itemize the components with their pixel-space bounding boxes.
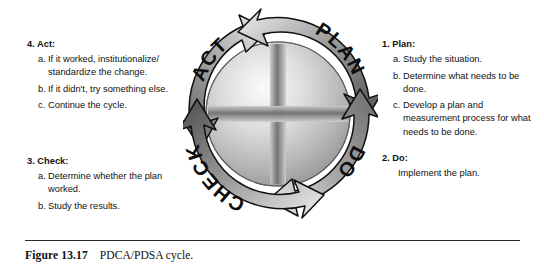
list-marker: a. bbox=[38, 53, 48, 79]
figure-area: 4. Act: a. If it worked, institutionaliz… bbox=[0, 0, 544, 232]
pdca-cycle-diagram: PLAN DO CHECK ACT bbox=[183, 4, 378, 230]
list-text: Develop a plan and measurement process f… bbox=[403, 99, 538, 138]
step-block-check: 3. Check: a. Determine whether the plan … bbox=[27, 155, 187, 216]
list-marker: b. bbox=[393, 70, 403, 96]
list-text: Continue the cycle. bbox=[48, 99, 195, 112]
list-item: b. Determine what needs to be done. bbox=[382, 70, 538, 96]
list-item: c. Continue the cycle. bbox=[27, 99, 195, 112]
list-text: If it didn't, try something else. bbox=[48, 83, 195, 96]
step-text-do: Implement the plan. bbox=[382, 167, 532, 180]
list-marker: b. bbox=[38, 83, 48, 96]
list-text: Study the results. bbox=[48, 200, 187, 213]
list-text: Determine whether the plan worked. bbox=[48, 170, 187, 196]
list-marker: a. bbox=[393, 53, 403, 66]
list-item: b. If it didn't, try something else. bbox=[27, 83, 195, 96]
step-title-act: 4. Act: bbox=[27, 38, 195, 51]
step-block-do: 2. Do: Implement the plan. bbox=[382, 152, 532, 180]
caption-rule bbox=[25, 240, 520, 241]
list-item: b. Study the results. bbox=[27, 200, 187, 213]
list-marker: b. bbox=[38, 200, 48, 213]
figure-caption-text: PDCA/PDSA cycle. bbox=[100, 249, 193, 262]
list-text: Study the situation. bbox=[403, 53, 538, 66]
list-text: If it worked, institutionalize/ standard… bbox=[48, 53, 195, 79]
list-marker: c. bbox=[393, 99, 403, 138]
step-title-check: 3. Check: bbox=[27, 155, 187, 168]
step-block-plan: 1. Plan: a. Study the situation. b. Dete… bbox=[382, 38, 538, 142]
list-item: a. If it worked, institutionalize/ stand… bbox=[27, 53, 195, 79]
list-item: a. Determine whether the plan worked. bbox=[27, 170, 187, 196]
list-text: Determine what needs to be done. bbox=[403, 70, 538, 96]
step-title-do: 2. Do: bbox=[382, 152, 532, 165]
step-list-plan: a. Study the situation. b. Determine wha… bbox=[382, 53, 538, 139]
figure-caption: Figure 13.17PDCA/PDSA cycle. bbox=[25, 249, 193, 262]
step-list-act: a. If it worked, institutionalize/ stand… bbox=[27, 53, 195, 112]
list-item: a. Study the situation. bbox=[382, 53, 538, 66]
list-item: c. Develop a plan and measurement proces… bbox=[382, 99, 538, 138]
step-list-check: a. Determine whether the plan worked. b.… bbox=[27, 170, 187, 213]
figure-caption-label: Figure 13.17 bbox=[25, 249, 88, 262]
list-marker: a. bbox=[38, 170, 48, 196]
step-block-act: 4. Act: a. If it worked, institutionaliz… bbox=[27, 38, 195, 116]
list-marker: c. bbox=[38, 99, 48, 112]
step-title-plan: 1. Plan: bbox=[382, 38, 538, 51]
